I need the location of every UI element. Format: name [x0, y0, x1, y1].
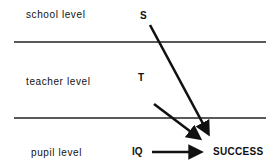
teacher-variable-t: T: [138, 72, 144, 84]
pupil-level-label: pupil level: [31, 147, 82, 159]
arrow-s-to-success: [150, 25, 208, 133]
teacher-level-label: teacher level: [26, 76, 91, 88]
outcome-success: SUCCESS: [213, 146, 263, 158]
pupil-variable-iq: IQ: [132, 146, 143, 158]
arrow-t-to-success: [154, 104, 199, 138]
school-variable-s: S: [140, 10, 147, 22]
school-level-label: school level: [26, 9, 85, 21]
